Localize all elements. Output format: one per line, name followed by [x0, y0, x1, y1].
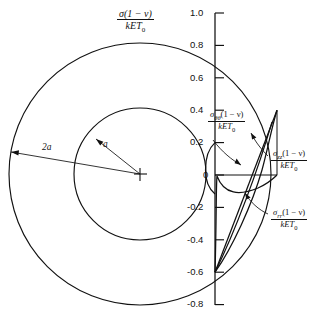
leader-sigma-theta-theta — [213, 140, 241, 165]
zz-den: kET — [281, 160, 295, 170]
curve-label-sigma-rr: σrr(1 − ν) kET0 — [271, 208, 307, 231]
axis-title-sigma: σ(1 − ν) kET0 — [117, 8, 154, 35]
y-tick-label-neg-0-2: -0.2 — [187, 201, 203, 212]
arrowhead-zz — [251, 133, 256, 140]
dimension-label-a: a — [103, 139, 108, 149]
figure-canvas: σ(1 − ν) kET0 1.0 0.8 0.6 0.4 0.2 0 -0.2… — [0, 0, 318, 318]
axis-title-numerator: σ(1 − ν) — [119, 8, 152, 19]
theta-den-sub: 0 — [232, 126, 235, 133]
y-tick-label-0-2: 0.2 — [190, 136, 203, 147]
rr-rest: (1 − ν) — [282, 207, 305, 217]
rr-den: kET — [281, 219, 295, 229]
arrowhead-theta — [235, 159, 241, 165]
axis-title-denominator-sub: 0 — [142, 26, 146, 34]
arrowhead-2a — [11, 150, 19, 155]
zz-rest: (1 − ν) — [282, 148, 305, 158]
dimension-label-2a: 2a — [42, 142, 52, 152]
y-tick-label-0-8: 0.8 — [190, 39, 203, 50]
leader-sigma-rr — [245, 193, 268, 214]
y-tick-label-neg-0-6: -0.6 — [187, 266, 203, 277]
curve-label-sigma-zz: σzz(1 − ν) kET0 — [271, 149, 307, 172]
theta-den: kET — [218, 121, 232, 131]
y-tick-label-0: 0 — [203, 169, 208, 180]
y-tick-label-neg-0-8: -0.8 — [187, 298, 203, 309]
curve-label-sigma-theta-theta: σθθ(1 − ν) kET0 — [208, 110, 245, 133]
rr-den-sub: 0 — [294, 224, 297, 231]
theta-rest: (1 − ν) — [221, 109, 244, 119]
axis-title-denominator: kET — [126, 20, 142, 31]
y-tick-label-1-0: 1.0 — [190, 7, 203, 18]
y-tick-label-0-6: 0.6 — [190, 72, 203, 83]
zz-den-sub: 0 — [294, 165, 297, 172]
center-cross-marker — [134, 168, 147, 181]
y-tick-label-neg-0-4: -0.4 — [187, 234, 203, 245]
y-tick-label-0-4: 0.4 — [190, 104, 203, 115]
